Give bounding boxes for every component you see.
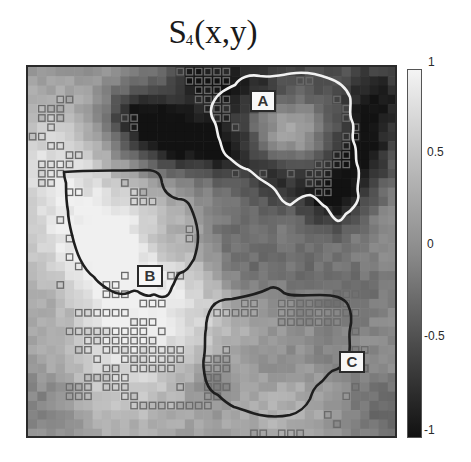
region-label-a: A	[250, 90, 276, 112]
chart-title: S4(x,y)	[0, 14, 426, 51]
region-outlines	[28, 67, 397, 438]
colorbar	[407, 69, 422, 438]
heatmap-plot-area	[28, 67, 397, 438]
region-b-outline	[64, 170, 198, 297]
region-a-outline	[211, 73, 359, 221]
title-subscript: 4	[186, 32, 194, 48]
region-label-b: B	[137, 265, 163, 287]
colorbar-tick-0-5: 0.5	[427, 146, 444, 158]
colorbar-tick-0: 0	[427, 238, 434, 250]
region-c-outline	[203, 287, 351, 416]
region-label-c: C	[339, 351, 365, 373]
title-suffix: (x,y)	[194, 14, 257, 50]
colorbar-tick-1: 1	[428, 56, 435, 68]
colorbar-tick-minus-1: -1	[424, 424, 435, 436]
colorbar-tick-minus-0-5: -0.5	[424, 330, 445, 342]
title-main: S	[168, 14, 186, 50]
